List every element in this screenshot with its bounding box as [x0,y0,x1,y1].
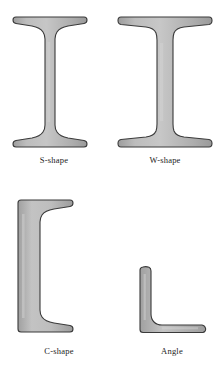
angle-cross-section-icon [132,262,212,336]
angle-figure [132,262,212,336]
s-shape-cross-section-icon [2,12,106,152]
c-shape-figure [12,196,106,336]
angle-label: Angle [132,347,212,356]
w-shape-label: W-shape [112,156,218,165]
w-shape-figure [112,12,218,152]
s-shape-figure [2,12,106,152]
w-shape-cross-section-icon [112,12,218,152]
c-shape-cross-section-icon [12,196,106,336]
s-shape-label: S-shape [2,156,106,165]
steel-shapes-figure: S-shape W-shape [0,0,220,368]
c-shape-label: C-shape [12,347,106,356]
